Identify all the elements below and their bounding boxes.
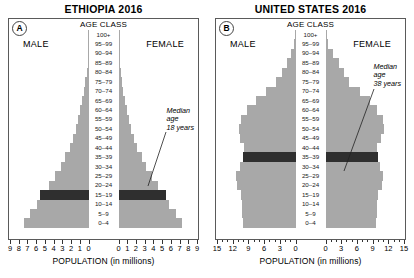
plot-area-united-states: B AGE CLASS MALE FEMALE 100+95–9990–9485… (215, 18, 406, 240)
axis-minor-tick (269, 240, 270, 242)
axis-minor-tick (336, 240, 337, 242)
axis-minor-tick (331, 240, 332, 242)
axis-minor-tick (243, 240, 244, 242)
axis-tick-label: 12 (229, 244, 237, 253)
x-axis-tick-labels-ethiopia: 98765432100123456789 (8, 244, 199, 255)
axis-tick-label: 6 (34, 244, 38, 253)
x-axis-united-states: 1512963003691215 (215, 240, 406, 256)
axis-minor-tick (290, 240, 291, 242)
population-pyramid-figure: ETHIOPIA 2016 A AGE CLASS MALE FEMALE 10… (0, 0, 414, 278)
x-axis-title-ethiopia: POPULATION (in millions) (0, 256, 207, 266)
panel-title-united-states: UNITED STATES 2016 (207, 0, 414, 17)
axis-tick-label: 7 (25, 244, 29, 253)
axis-tick-label: 6 (169, 244, 173, 253)
median-age-annotation-ethiopia: Median age 18 years (166, 107, 194, 132)
axis-minor-tick (275, 240, 276, 242)
axis-minor-tick (394, 240, 395, 242)
axis-minor-tick (362, 240, 363, 242)
axis-tick-label: 2 (134, 244, 138, 253)
axis-tick-label: 3 (339, 244, 343, 253)
axis-tick-label: 3 (143, 244, 147, 253)
axis-tick-label: 12 (384, 244, 392, 253)
axis-tick-label: 9 (195, 244, 199, 253)
axis-tick-label: 5 (160, 244, 164, 253)
axis-tick-label: 0 (323, 244, 327, 253)
x-axis-ethiopia: 98765432100123456789 (8, 240, 199, 256)
axis-tick-label: 1 (78, 244, 82, 253)
leader-line-united-states (216, 19, 407, 239)
axis-tick-label: 4 (151, 244, 155, 253)
axis-minor-tick (383, 240, 384, 242)
axis-tick-label: 0 (293, 244, 297, 253)
axis-tick-label: 4 (52, 244, 56, 253)
axis-minor-tick (378, 240, 379, 242)
axis-minor-tick (259, 240, 260, 242)
axis-tick-label: 3 (60, 244, 64, 253)
plot-area-ethiopia: A AGE CLASS MALE FEMALE 100+95–9990–9485… (8, 18, 199, 240)
axis-tick-label: 6 (355, 244, 359, 253)
axis-minor-tick (238, 240, 239, 242)
axis-tick-label: 1 (125, 244, 129, 253)
axis-tick-label: 15 (400, 244, 408, 253)
panel-ethiopia: ETHIOPIA 2016 A AGE CLASS MALE FEMALE 10… (0, 0, 207, 278)
axis-tick-label: 9 (246, 244, 250, 253)
axis-minor-tick (367, 240, 368, 242)
axis-tick-label: 8 (17, 244, 21, 253)
axis-minor-tick (285, 240, 286, 242)
axis-tick-label: 15 (213, 244, 221, 253)
x-axis-tick-labels-united-states: 1512963003691215 (215, 244, 406, 255)
axis-tick-label: 8 (186, 244, 190, 253)
axis-tick-label: 6 (262, 244, 266, 253)
axis-tick-label: 3 (278, 244, 282, 253)
axis-minor-tick (254, 240, 255, 242)
axis-tick-label: 2 (69, 244, 73, 253)
panel-title-ethiopia: ETHIOPIA 2016 (0, 0, 207, 17)
axis-tick-label: 5 (43, 244, 47, 253)
axis-minor-tick (227, 240, 228, 242)
panel-united-states: UNITED STATES 2016 B AGE CLASS MALE FEMA… (207, 0, 414, 278)
axis-tick-label: 0 (116, 244, 120, 253)
axis-minor-tick (352, 240, 353, 242)
axis-tick-label: 9 (8, 244, 12, 253)
x-axis-title-united-states: POPULATION (in millions) (207, 256, 414, 266)
axis-tick-label: 0 (86, 244, 90, 253)
axis-minor-tick (222, 240, 223, 242)
median-age-annotation-united-states: Median age 38 years (373, 63, 401, 88)
axis-tick-label: 7 (177, 244, 181, 253)
axis-minor-tick (346, 240, 347, 242)
axis-tick-label: 9 (371, 244, 375, 253)
axis-minor-tick (399, 240, 400, 242)
